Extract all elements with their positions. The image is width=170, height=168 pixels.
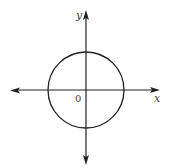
coordinate-diagram: y x 0 [0,0,170,168]
y-axis-label: y [75,9,83,22]
origin-label: 0 [75,93,81,104]
x-axis-label: x [154,92,161,105]
